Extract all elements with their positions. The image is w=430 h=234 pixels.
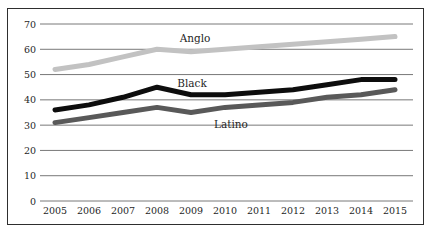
x-tick-label: 2013 (315, 205, 339, 216)
y-tick-label: 30 (24, 120, 36, 131)
x-tick-label: 2009 (179, 205, 203, 216)
x-tick-label: 2005 (43, 205, 67, 216)
line-chart: 010203040506070 200520062007200820092010… (0, 0, 430, 234)
x-tick-label: 2012 (281, 205, 305, 216)
series-label-anglo: Anglo (179, 32, 211, 44)
x-tick-label: 2015 (383, 205, 407, 216)
x-tick-label: 2008 (145, 205, 169, 216)
x-tick-label: 2011 (247, 205, 271, 216)
y-tick-label: 50 (24, 69, 36, 80)
y-tick-label: 0 (30, 196, 36, 207)
y-tick-label: 60 (24, 44, 36, 55)
y-tick-label: 10 (24, 170, 36, 181)
y-tick-labels: 010203040506070 (24, 19, 36, 207)
series-label-latino: Latino (214, 118, 248, 130)
chart-panel: 010203040506070 200520062007200820092010… (0, 0, 430, 234)
y-tick-label: 20 (24, 145, 36, 156)
y-tick-label: 40 (24, 94, 36, 105)
x-tick-label: 2010 (213, 205, 237, 216)
series-label-black: Black (177, 77, 207, 89)
y-tick-label: 70 (24, 19, 36, 30)
series-line-anglo (55, 37, 395, 70)
x-tick-label: 2006 (77, 205, 101, 216)
x-tick-label: 2007 (111, 205, 135, 216)
x-tick-label: 2014 (349, 205, 373, 216)
x-tick-labels: 2005200620072008200920102011201220132014… (43, 205, 407, 216)
